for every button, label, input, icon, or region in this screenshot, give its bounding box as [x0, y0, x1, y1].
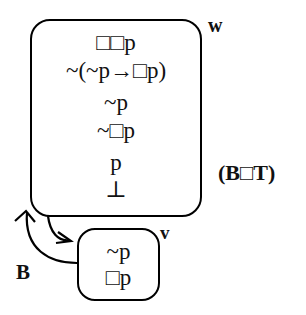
arrow-w-to-v [48, 216, 71, 243]
relation-arrows [0, 0, 306, 315]
arrow-v-to-w [15, 211, 77, 263]
kripke-diagram: □□p ~(~p→□p) ~p ~□p p ⊥ w ~p □p v (B□T) … [0, 0, 306, 315]
